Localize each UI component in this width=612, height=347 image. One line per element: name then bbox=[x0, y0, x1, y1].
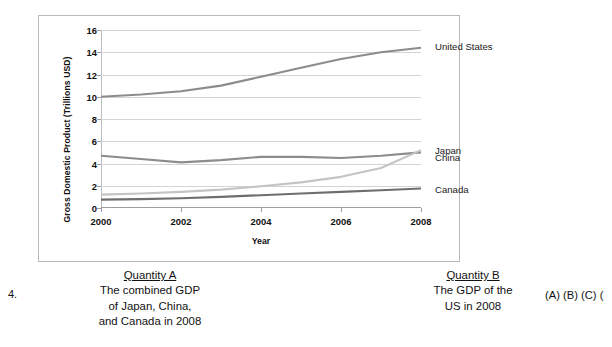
x-tick-mark bbox=[261, 208, 262, 212]
series-line bbox=[101, 48, 421, 97]
y-tick-label: 16 bbox=[57, 25, 97, 36]
series-label-china: China bbox=[435, 152, 460, 163]
y-tick-label: 0 bbox=[57, 203, 97, 214]
quantity-b-block: Quantity B The GDP of the US in 2008 bbox=[398, 268, 548, 314]
x-tick-mark bbox=[421, 208, 422, 212]
x-tick-label: 2004 bbox=[251, 216, 272, 227]
quantity-b-heading: Quantity B bbox=[398, 268, 548, 283]
y-tick-label: 6 bbox=[57, 136, 97, 147]
x-tick-label: 2008 bbox=[411, 216, 432, 227]
quantity-a-line-1: The combined GDP bbox=[40, 283, 260, 299]
y-tick-label: 4 bbox=[57, 158, 97, 169]
x-tick-mark bbox=[101, 208, 102, 212]
series-line bbox=[101, 152, 421, 162]
x-tick-label: 2000 bbox=[91, 216, 112, 227]
plot-area: 0246810121416 20002002200420062008 Unite… bbox=[101, 30, 421, 208]
x-tick-label: 2006 bbox=[331, 216, 352, 227]
question-number: 4. bbox=[8, 288, 17, 300]
y-tick-label: 2 bbox=[57, 180, 97, 191]
quantity-a-line-2: of Japan, China, bbox=[40, 299, 260, 315]
series-label-united-states: United States bbox=[435, 40, 493, 51]
chart-frame: Gross Domestic Product (Trillions USD) 0… bbox=[38, 15, 460, 262]
x-tick-mark bbox=[341, 208, 342, 212]
x-tick-label: 2002 bbox=[171, 216, 192, 227]
x-axis-title: Year bbox=[101, 236, 421, 246]
quantity-a-heading: Quantity A bbox=[40, 268, 260, 283]
series-lines bbox=[101, 30, 421, 208]
y-tick-label: 8 bbox=[57, 114, 97, 125]
y-tick-label: 12 bbox=[57, 69, 97, 80]
y-tick-label: 14 bbox=[57, 47, 97, 58]
quantity-a-block: Quantity A The combined GDP of Japan, Ch… bbox=[40, 268, 260, 330]
quantity-a-line-3: and Canada in 2008 bbox=[40, 314, 260, 330]
x-tick-mark bbox=[181, 208, 182, 212]
quantity-b-line-2: US in 2008 bbox=[398, 299, 548, 315]
series-label-canada: Canada bbox=[435, 183, 469, 194]
y-tick-label: 10 bbox=[57, 91, 97, 102]
answer-choices[interactable]: (A) (B) (C) ( bbox=[545, 289, 603, 301]
quantity-b-line-1: The GDP of the bbox=[398, 283, 548, 299]
